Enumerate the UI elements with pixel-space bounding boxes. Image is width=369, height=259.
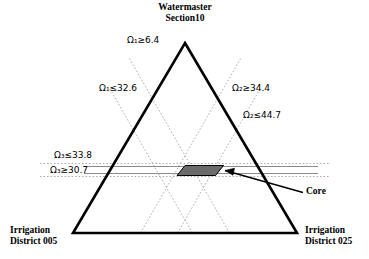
ternary-triangle-outline bbox=[73, 43, 297, 233]
constraint-label-omega1-min: Ω₁≥6.4 bbox=[127, 35, 159, 46]
vertex-label-right-line2: District 025 bbox=[305, 236, 369, 247]
constraint-gridlines bbox=[40, 57, 330, 233]
vertex-label-top-line1: Watermaster bbox=[133, 2, 237, 13]
core-region bbox=[177, 166, 224, 176]
ternary-diagram-figure bbox=[0, 0, 369, 259]
gridline-parallel-left-1 bbox=[141, 57, 242, 233]
constraint-label-omega3-max: Ω₃≤33.8 bbox=[54, 150, 92, 161]
gridline-parallel-right-2 bbox=[110, 89, 193, 233]
vertex-label-top: Watermaster Section10 bbox=[133, 2, 237, 24]
vertex-label-right: Irrigation District 025 bbox=[305, 225, 369, 247]
vertex-label-left-line2: District 005 bbox=[10, 236, 100, 247]
constraint-label-omega3-min: Ω₃≥30.7 bbox=[50, 165, 88, 176]
vertex-label-left: Irrigation District 005 bbox=[10, 225, 100, 247]
vertex-label-left-line1: Irrigation bbox=[10, 225, 100, 236]
constraint-label-omega1-max: Ω₁≤32.6 bbox=[99, 83, 137, 94]
constraint-label-omega2-min: Ω₂≥34.4 bbox=[232, 83, 270, 94]
core-label: Core bbox=[306, 186, 326, 197]
vertex-label-top-line2: Section10 bbox=[133, 13, 237, 24]
vertex-label-right-line1: Irrigation bbox=[305, 225, 369, 236]
gridline-parallel-right-1 bbox=[129, 57, 230, 233]
constraint-label-omega2-max: Ω₂≤44.7 bbox=[243, 110, 281, 121]
core-callout-arrow bbox=[225, 168, 303, 192]
